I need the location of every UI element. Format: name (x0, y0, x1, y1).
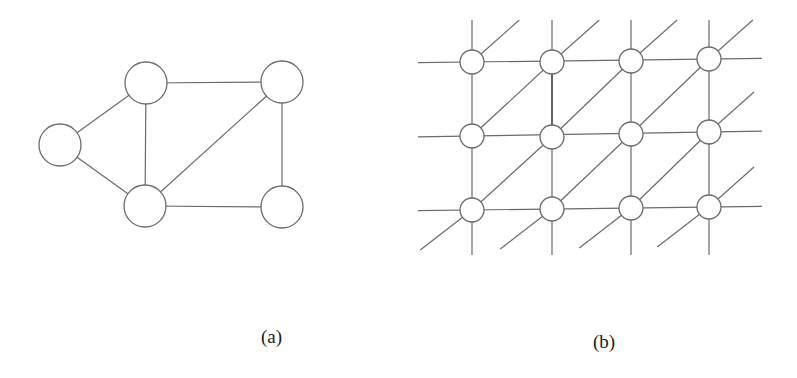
panel-a-graph (39, 61, 303, 228)
node-bottom-left (124, 185, 166, 227)
edge-bottom-left-top-right (145, 82, 282, 206)
node-left (39, 124, 81, 166)
grid-node-3-1 (697, 120, 721, 144)
figure-canvas (0, 0, 797, 378)
caption-a: (a) (261, 327, 282, 346)
node-top-right (261, 61, 303, 103)
diagonal-edge-2-1 (631, 132, 709, 208)
panel-a-edges (60, 82, 282, 207)
diagonal-edge-1-0 (552, 61, 631, 137)
grid-node-0-2 (460, 198, 484, 222)
grid-node-2-1 (619, 122, 643, 146)
grid-node-2-2 (619, 196, 643, 220)
grid-node-1-2 (540, 197, 564, 221)
node-bottom-right (261, 186, 303, 228)
diagonal-edge-0-0 (472, 62, 552, 136)
panel-b-grid-graph (418, 20, 762, 255)
diagonal-edge-1-1 (552, 134, 631, 209)
grid-node-0-0 (460, 50, 484, 74)
grid-node-3-0 (697, 47, 721, 71)
grid-node-1-1 (540, 125, 564, 149)
panel-a-nodes (39, 61, 303, 228)
diagonal-edge-0-1 (472, 137, 552, 210)
diagonal-edge-2-0 (631, 59, 709, 134)
grid-node-2-0 (619, 49, 643, 73)
caption-b: (b) (593, 332, 615, 351)
node-top-left (125, 62, 167, 104)
grid-node-0-1 (460, 124, 484, 148)
grid-node-3-2 (697, 195, 721, 219)
grid-node-1-0 (540, 50, 564, 74)
